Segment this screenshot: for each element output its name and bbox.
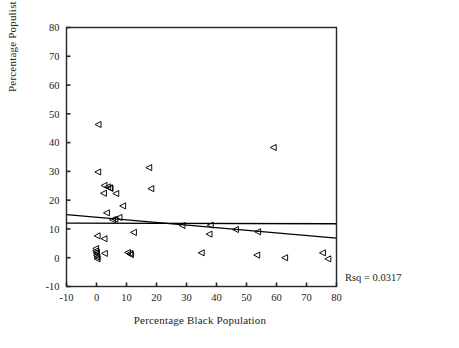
data-point-marker bbox=[94, 233, 100, 239]
data-point-marker bbox=[198, 250, 204, 256]
x-tick-label: 80 bbox=[331, 292, 342, 303]
y-axis-title: Percentage Populist Vote bbox=[6, 0, 18, 92]
data-point-marker bbox=[146, 165, 152, 171]
data-point-marker bbox=[254, 252, 260, 258]
x-tick-label: 70 bbox=[301, 292, 312, 303]
y-tick-label: 30 bbox=[49, 166, 60, 177]
data-point-marker bbox=[101, 190, 107, 196]
rsq-annotation: Rsq = 0.0317 bbox=[345, 272, 401, 283]
data-point-marker bbox=[320, 250, 326, 256]
scatter-plot-figure: Percentage Populist Vote Percentage Blac… bbox=[0, 0, 459, 348]
y-tick-label: 80 bbox=[49, 22, 60, 33]
y-tick-label: 40 bbox=[49, 137, 60, 148]
trend-lines-group bbox=[67, 215, 337, 239]
data-point-marker bbox=[120, 203, 126, 209]
y-tick-label: 60 bbox=[49, 80, 60, 91]
y-tick-label: 10 bbox=[49, 224, 60, 235]
data-point-marker bbox=[206, 231, 212, 237]
x-tick-label: 0 bbox=[94, 292, 99, 303]
x-tick-label: 30 bbox=[181, 292, 192, 303]
x-tick-label: 60 bbox=[271, 292, 282, 303]
axes-group bbox=[67, 28, 337, 287]
data-point-marker bbox=[95, 121, 101, 127]
data-point-marker bbox=[131, 229, 137, 235]
plot-canvas: -1001020304050607080-1001020304050607080 bbox=[0, 0, 459, 348]
data-point-marker bbox=[104, 210, 110, 216]
data-point-marker bbox=[95, 169, 101, 175]
data-point-marker bbox=[113, 191, 119, 197]
data-point-marker bbox=[325, 256, 331, 262]
y-tick-label: 50 bbox=[49, 109, 60, 120]
data-point-marker bbox=[282, 255, 288, 261]
regression-line bbox=[67, 215, 337, 239]
x-tick-label: -10 bbox=[60, 292, 74, 303]
y-tick-label: 20 bbox=[49, 195, 60, 206]
data-point-marker bbox=[148, 186, 154, 192]
y-tick-label: -10 bbox=[46, 281, 60, 292]
data-point-marker bbox=[101, 236, 107, 242]
reference-line bbox=[67, 223, 337, 224]
data-points-group bbox=[93, 121, 331, 261]
x-tick-label: 10 bbox=[121, 292, 132, 303]
x-tick-label: 50 bbox=[241, 292, 252, 303]
x-tick-label: 40 bbox=[211, 292, 222, 303]
y-tick-label: 0 bbox=[54, 253, 59, 264]
y-tick-label: 70 bbox=[49, 51, 60, 62]
x-axis-title: Percentage Black Population bbox=[0, 314, 400, 326]
tick-labels-group: -1001020304050607080-1001020304050607080 bbox=[46, 22, 342, 302]
data-point-marker bbox=[101, 250, 107, 256]
data-point-marker bbox=[270, 144, 276, 150]
x-tick-label: 20 bbox=[151, 292, 162, 303]
plot-frame bbox=[67, 28, 337, 287]
